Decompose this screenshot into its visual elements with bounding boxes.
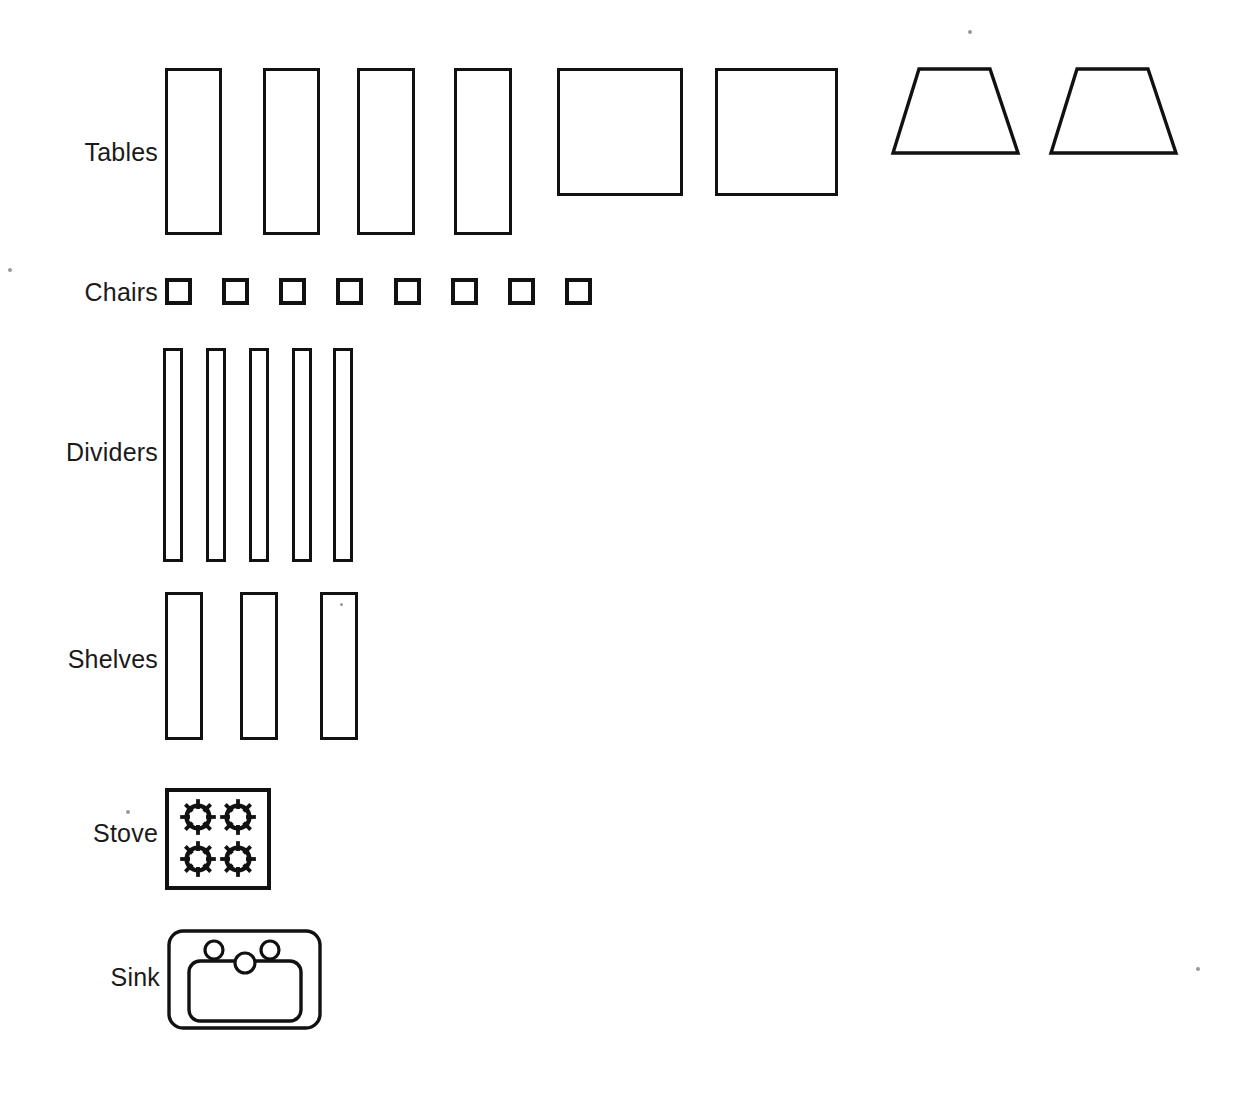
- divider-2: [206, 348, 226, 562]
- sink-drain: [235, 953, 255, 973]
- speck-stove-label: [126, 810, 130, 814]
- stove-burner-top-left: [179, 798, 217, 836]
- table-rect-3: [357, 68, 415, 235]
- symbol-legend-sheet: TablesChairsDividersShelvesStoveSink: [0, 0, 1238, 1095]
- divider-3: [249, 348, 269, 562]
- table-rect-2: [263, 68, 320, 235]
- chair-7: [508, 278, 535, 305]
- speck-top-right: [968, 30, 972, 34]
- shelf-2: [240, 592, 278, 740]
- row-label-sink: Sink: [0, 965, 160, 990]
- stove-burner-top-right: [219, 798, 257, 836]
- row-label-dividers: Dividers: [0, 440, 158, 465]
- table-trapezoid-8: [1048, 66, 1180, 156]
- table-rect-4: [454, 68, 512, 235]
- speck-shelf: [340, 603, 343, 606]
- row-label-chairs: Chairs: [0, 280, 158, 305]
- divider-5: [333, 348, 353, 562]
- table-square-5: [557, 68, 683, 196]
- stove-burner-bottom-right: [219, 840, 257, 878]
- sink-tap-right: [261, 941, 279, 959]
- table-rect-1: [165, 68, 222, 235]
- shelf-1: [165, 592, 203, 740]
- sink-tap-left: [205, 941, 223, 959]
- sink-fixture: [167, 929, 322, 1030]
- row-label-tables: Tables: [0, 140, 158, 165]
- row-label-shelves: Shelves: [0, 647, 158, 672]
- chair-1: [165, 278, 192, 305]
- divider-1: [163, 348, 183, 562]
- chair-2: [222, 278, 249, 305]
- stove-burner-bottom-left: [179, 840, 217, 878]
- row-label-stove: Stove: [0, 821, 158, 846]
- table-trapezoid-7: [890, 66, 1022, 156]
- chair-6: [451, 278, 478, 305]
- shelf-3: [320, 592, 358, 740]
- speck-bottom-right: [1196, 967, 1200, 971]
- chair-5: [394, 278, 421, 305]
- table-square-6: [715, 68, 838, 196]
- speck-left-margin: [8, 268, 12, 272]
- divider-4: [292, 348, 312, 562]
- chair-4: [336, 278, 363, 305]
- chair-8: [565, 278, 592, 305]
- chair-3: [279, 278, 306, 305]
